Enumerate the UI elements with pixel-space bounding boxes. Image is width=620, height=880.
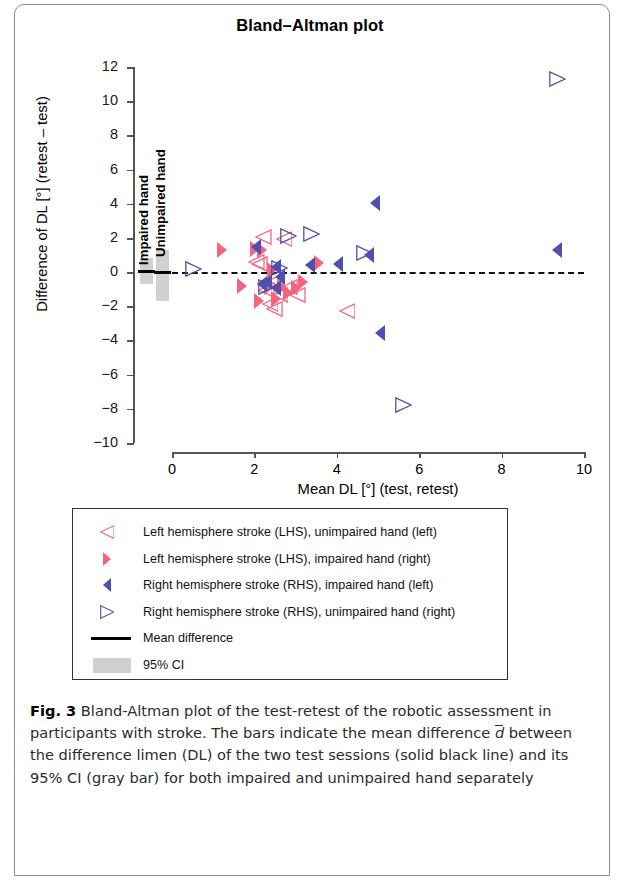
y-tick-mark xyxy=(127,306,134,308)
scatter-marker xyxy=(251,239,261,255)
legend-item: Left hemisphere stroke (LHS), unimpaired… xyxy=(73,519,507,545)
x-tick-label: 10 xyxy=(564,461,604,477)
triangle-right-open-icon xyxy=(73,599,143,625)
scatter-marker xyxy=(375,325,385,341)
legend-label: Left hemisphere stroke (LHS), impaired h… xyxy=(143,552,431,566)
solid-line-icon xyxy=(73,625,143,651)
y-tick-label: 8 xyxy=(60,126,118,142)
y-tick-mark xyxy=(127,204,134,206)
y-tick-mark xyxy=(127,375,134,377)
legend-label: Right hemisphere stroke (RHS), impaired … xyxy=(143,578,433,592)
figure-caption: Fig. 3 Bland-Altman plot of the test-ret… xyxy=(30,700,592,789)
x-tick-mark xyxy=(584,452,586,458)
y-tick-label: −6 xyxy=(60,366,118,382)
unimpaired-hand-label: Unimpaired hand xyxy=(153,149,168,257)
y-axis-line xyxy=(133,67,135,443)
scatter-marker xyxy=(305,257,315,273)
scatter-marker xyxy=(258,279,275,295)
legend-item: Right hemisphere stroke (RHS), impaired … xyxy=(73,572,507,598)
y-tick-mark xyxy=(127,409,134,411)
x-tick-mark xyxy=(337,452,339,458)
y-tick-mark xyxy=(127,67,134,69)
x-tick-mark xyxy=(254,452,256,458)
x-tick-label: 0 xyxy=(152,461,192,477)
scatter-marker xyxy=(552,242,562,258)
scatter-marker xyxy=(303,226,320,242)
scatter-marker xyxy=(254,293,264,309)
x-tick-label: 2 xyxy=(234,461,274,477)
y-tick-mark xyxy=(127,101,134,103)
scatter-marker xyxy=(271,260,288,276)
impaired-hand-label: Impaired hand xyxy=(136,175,151,265)
y-tick-label: 2 xyxy=(60,229,118,245)
y-tick-mark xyxy=(127,340,134,342)
y-tick-mark xyxy=(127,170,134,172)
triangle-left-open-icon xyxy=(73,519,143,545)
triangle-left-filled-icon xyxy=(73,572,143,598)
triangle-right-filled-icon xyxy=(73,546,143,572)
scatter-marker xyxy=(395,397,412,413)
legend-label: 95% CI xyxy=(143,658,184,672)
scatter-marker xyxy=(339,303,356,319)
y-tick-mark xyxy=(127,272,134,274)
scatter-marker xyxy=(217,242,227,258)
y-tick-label: −2 xyxy=(60,297,118,313)
figure-root: Bland–Altman plot 121086420−2−4−6−8−10 0… xyxy=(0,0,620,880)
ci-bar xyxy=(156,250,169,302)
zero-reference-line xyxy=(172,272,584,274)
y-tick-label: 0 xyxy=(60,263,118,279)
y-axis-title: Difference of DL [°] (retest – test) xyxy=(34,54,50,354)
scatter-marker xyxy=(283,285,293,301)
scatter-marker xyxy=(333,256,343,272)
caption-d-bar-symbol: d xyxy=(495,724,504,741)
y-tick-label: 12 xyxy=(60,58,118,74)
y-tick-label: −8 xyxy=(60,400,118,416)
legend-item: Mean difference xyxy=(73,625,507,651)
y-tick-label: 10 xyxy=(60,92,118,108)
mean-difference-line xyxy=(138,270,155,273)
x-tick-mark xyxy=(172,452,174,458)
y-tick-label: 4 xyxy=(60,195,118,211)
gray-swatch-icon xyxy=(73,652,143,678)
legend-label: Right hemisphere stroke (RHS), unimpaire… xyxy=(143,605,455,619)
scatter-marker xyxy=(356,245,373,261)
scatter-marker xyxy=(280,228,297,244)
y-tick-mark xyxy=(127,238,134,240)
x-tick-label: 8 xyxy=(482,461,522,477)
x-tick-mark xyxy=(419,452,421,458)
x-axis-title: Mean DL [°] (test, retest) xyxy=(172,481,584,497)
figure-label: Fig. 3 xyxy=(30,702,76,719)
mean-difference-line xyxy=(154,271,171,274)
scatter-marker xyxy=(185,261,202,277)
x-axis-line xyxy=(172,452,584,454)
legend-item: Right hemisphere stroke (RHS), unimpaire… xyxy=(73,599,507,625)
chart-title: Bland–Altman plot xyxy=(0,16,620,35)
scatter-marker xyxy=(549,71,566,87)
chart-legend: Left hemisphere stroke (LHS), unimpaired… xyxy=(72,508,508,680)
scatter-marker xyxy=(370,195,380,211)
legend-label: Mean difference xyxy=(143,631,233,645)
y-tick-label: −10 xyxy=(60,434,118,450)
scatter-marker xyxy=(314,255,324,271)
scatter-marker xyxy=(298,274,308,290)
y-tick-mark xyxy=(127,443,134,445)
bland-altman-chart: Bland–Altman plot 121086420−2−4−6−8−10 0… xyxy=(0,0,620,500)
y-tick-label: −4 xyxy=(60,331,118,347)
caption-part-1: Bland-Altman plot of the test-retest of … xyxy=(30,702,552,741)
x-tick-label: 4 xyxy=(317,461,357,477)
x-tick-mark xyxy=(502,452,504,458)
legend-item: 95% CI xyxy=(73,652,507,678)
x-tick-label: 6 xyxy=(399,461,439,477)
plot-area: Impaired handUnimpaired hand xyxy=(172,67,584,443)
legend-label: Left hemisphere stroke (LHS), unimpaired… xyxy=(143,525,437,539)
legend-item: Left hemisphere stroke (LHS), impaired h… xyxy=(73,546,507,572)
y-tick-label: 6 xyxy=(60,161,118,177)
y-tick-mark xyxy=(127,135,134,137)
scatter-marker xyxy=(237,278,247,294)
